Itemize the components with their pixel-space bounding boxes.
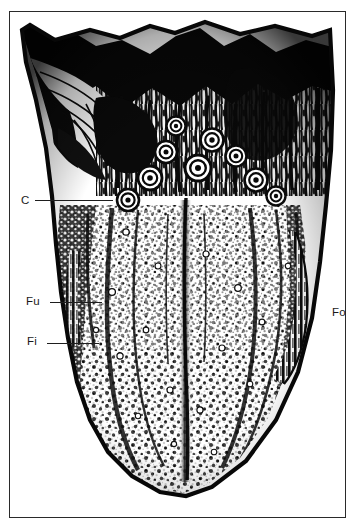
plate-border-frame <box>9 11 346 518</box>
label-fungiform: Fu <box>26 295 40 307</box>
leader-line-fi <box>47 343 99 344</box>
illustration-plate: C Fu Fi Fo <box>0 0 356 529</box>
label-filiform: Fi <box>27 335 37 347</box>
leader-line-fu <box>50 302 102 303</box>
label-foliate: Fo <box>332 306 346 318</box>
leader-line-c <box>35 200 113 201</box>
label-circumvallate: C <box>21 194 30 206</box>
